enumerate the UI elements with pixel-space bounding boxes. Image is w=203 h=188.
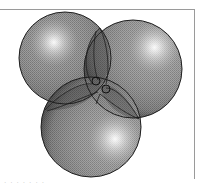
three-spheres-diagram xyxy=(0,0,203,188)
figure-caption: · · · · · · · xyxy=(4,179,45,186)
